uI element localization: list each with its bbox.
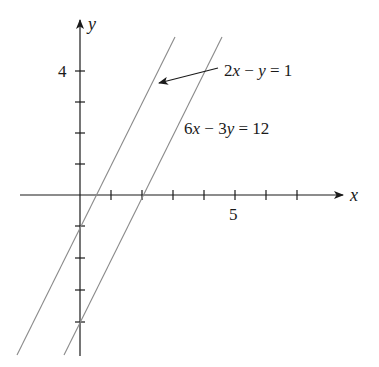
x-axis: x 5 <box>20 185 358 224</box>
line-6x-minus-3y-eq-12 <box>64 37 222 355</box>
annotation-arrow <box>159 68 218 83</box>
y-axis-label: y <box>86 14 96 34</box>
x-tick-label-5: 5 <box>229 205 238 224</box>
x-axis-label: x <box>349 185 358 205</box>
y-tick-label-4: 4 <box>58 62 67 81</box>
line-2x-minus-y-eq-1 <box>17 37 175 355</box>
equation-label-2: 6x − 3y = 12 <box>184 119 269 138</box>
y-axis: y 4 <box>58 14 96 356</box>
graph-canvas: x 5 y 4 2x − y = 1 6x − 3y = 12 <box>0 0 379 367</box>
equation-label-1: 2x − y = 1 <box>224 61 292 80</box>
